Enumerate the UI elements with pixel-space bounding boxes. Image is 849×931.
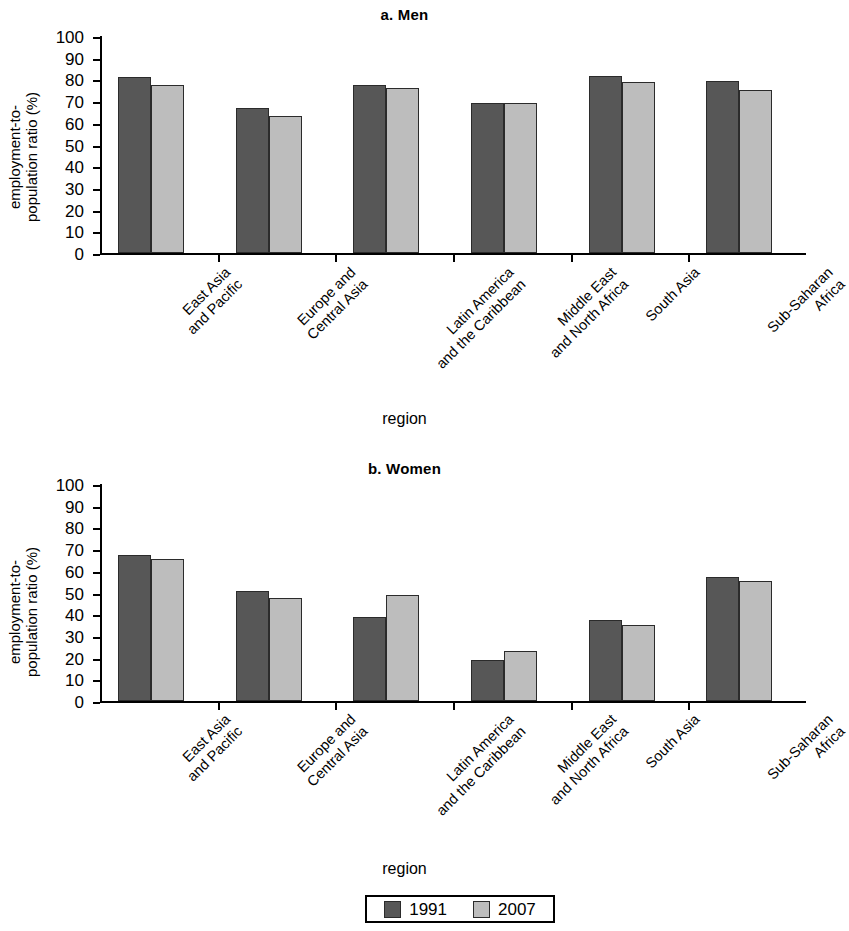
y-axis-tick: 50 xyxy=(93,146,100,148)
y-axis-tick-label: 30 xyxy=(65,180,84,197)
chart-panel-men: a. Men employment-to- population ratio (… xyxy=(0,0,809,455)
bar xyxy=(236,108,269,253)
bar xyxy=(386,88,419,253)
y-axis-tick: 60 xyxy=(93,124,100,126)
y-axis-tick-label: 40 xyxy=(65,607,84,624)
y-axis-tick: 0 xyxy=(93,702,100,704)
y-axis-tick-label: 80 xyxy=(65,72,84,89)
x-axis-tick xyxy=(453,255,455,262)
x-axis-tick xyxy=(453,703,455,710)
chart-legend: 19912007 xyxy=(365,895,555,923)
chart-title-women: b. Women xyxy=(0,460,809,477)
y-axis-tick-label: 90 xyxy=(65,498,84,515)
x-axis-category-label: South Asia xyxy=(642,264,703,325)
bar xyxy=(151,85,184,253)
x-axis-category-label: Sub-Saharan Africa xyxy=(764,264,848,348)
x-axis-category-label: East Asia and Pacific xyxy=(172,264,246,338)
y-axis-tick: 30 xyxy=(93,637,100,639)
bar xyxy=(589,76,622,253)
y-axis-tick-label: 70 xyxy=(65,542,84,559)
bar xyxy=(706,81,739,254)
y-axis-tick-label: 0 xyxy=(75,246,84,263)
x-axis-category-label: Sub-Saharan Africa xyxy=(764,711,848,795)
bar xyxy=(504,103,537,253)
x-axis-category-label: Latin America and the Caribbean xyxy=(421,711,529,819)
y-axis-tick: 80 xyxy=(93,528,100,530)
x-axis-tick xyxy=(688,703,690,710)
y-axis-tick: 70 xyxy=(93,102,100,104)
bar xyxy=(269,598,302,701)
bar xyxy=(151,559,184,701)
x-axis-tick xyxy=(218,703,220,710)
bar xyxy=(739,581,772,701)
x-axis-title-men: region xyxy=(0,410,809,428)
y-axis-tick: 10 xyxy=(93,232,100,234)
y-axis-tick-label: 20 xyxy=(65,202,84,219)
y-axis-tick-label: 100 xyxy=(56,29,84,46)
legend-item: 1991 xyxy=(384,901,447,918)
y-axis-tick: 40 xyxy=(93,615,100,617)
y-axis-tick: 20 xyxy=(93,211,100,213)
x-axis-category-label: Europe and Central Asia xyxy=(291,264,370,343)
legend-swatch xyxy=(473,901,490,918)
y-axis-line xyxy=(100,484,102,703)
y-axis-tick: 90 xyxy=(93,59,100,61)
bar xyxy=(622,625,655,701)
bar xyxy=(353,85,386,253)
x-axis-tick xyxy=(571,255,573,262)
y-axis-label-line2: population ratio (%) xyxy=(23,92,40,222)
bar xyxy=(471,103,504,253)
y-axis-label-line2: population ratio (%) xyxy=(23,547,40,677)
x-axis-tick xyxy=(218,255,220,262)
x-axis-category-label: East Asia and Pacific xyxy=(172,711,246,785)
y-axis-tick: 100 xyxy=(93,485,100,487)
y-axis-label-line1: employment-to- xyxy=(6,105,23,209)
bar xyxy=(471,660,504,701)
legend-label: 1991 xyxy=(409,901,447,918)
y-axis-tick: 0 xyxy=(93,254,100,256)
x-axis-category-label: South Asia xyxy=(642,711,703,772)
x-axis-category-label: Middle East and North Africa xyxy=(534,264,632,362)
y-axis-tick-label: 0 xyxy=(75,694,84,711)
plot-area-women: 0102030405060708090100 xyxy=(100,484,806,703)
x-axis-tick xyxy=(688,255,690,262)
y-axis-label-line1: employment-to- xyxy=(6,560,23,664)
y-axis-tick-label: 10 xyxy=(65,672,84,689)
x-axis-category-label: Europe and Central Asia xyxy=(291,711,370,790)
x-axis-category-label: Latin America and the Caribbean xyxy=(421,264,529,372)
bar xyxy=(622,82,655,253)
plot-area-men: 0102030405060708090100 xyxy=(100,36,806,255)
y-axis-tick-label: 20 xyxy=(65,650,84,667)
bar xyxy=(269,116,302,253)
bar xyxy=(504,651,537,701)
bar xyxy=(386,595,419,701)
y-axis-tick-label: 30 xyxy=(65,628,84,645)
y-axis-tick-label: 50 xyxy=(65,137,84,154)
y-axis-tick-label: 50 xyxy=(65,585,84,602)
bar xyxy=(118,77,151,253)
legend-item: 2007 xyxy=(473,901,536,918)
y-axis-tick: 50 xyxy=(93,594,100,596)
y-axis-tick-label: 100 xyxy=(56,477,84,494)
y-axis-line xyxy=(100,36,102,255)
y-axis-tick: 60 xyxy=(93,572,100,574)
x-axis-category-label: Middle East and North Africa xyxy=(534,711,632,809)
y-axis-tick-label: 60 xyxy=(65,115,84,132)
y-axis-tick-label: 80 xyxy=(65,520,84,537)
x-axis-tick xyxy=(335,255,337,262)
y-axis-tick: 30 xyxy=(93,189,100,191)
y-axis-tick-label: 40 xyxy=(65,159,84,176)
x-axis-title-women: region xyxy=(0,860,809,878)
legend-label: 2007 xyxy=(498,901,536,918)
bar xyxy=(118,555,151,701)
bar xyxy=(353,617,386,701)
bar xyxy=(589,620,622,701)
y-axis-tick: 10 xyxy=(93,680,100,682)
x-axis-tick xyxy=(335,703,337,710)
y-axis-tick: 40 xyxy=(93,167,100,169)
y-axis-tick: 90 xyxy=(93,507,100,509)
y-axis-tick: 80 xyxy=(93,80,100,82)
y-axis-tick-label: 70 xyxy=(65,94,84,111)
bar xyxy=(739,90,772,253)
bar xyxy=(236,591,269,701)
